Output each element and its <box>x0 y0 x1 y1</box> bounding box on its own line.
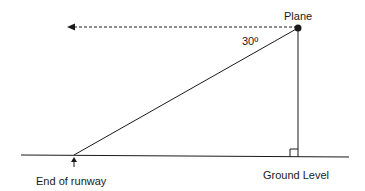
angle-label: 30º <box>242 36 258 47</box>
right-angle-marker <box>290 149 298 157</box>
ground-level-label: Ground Level <box>263 170 329 181</box>
ground-line <box>21 155 349 157</box>
arrow-left-icon <box>67 24 75 31</box>
line-of-sight <box>74 28 298 155</box>
plane-label: Plane <box>284 11 312 22</box>
end-of-runway-label: End of runway <box>36 176 106 187</box>
plane-point <box>295 25 302 32</box>
arrow-up-icon <box>71 157 77 162</box>
diagram-canvas <box>0 0 365 191</box>
